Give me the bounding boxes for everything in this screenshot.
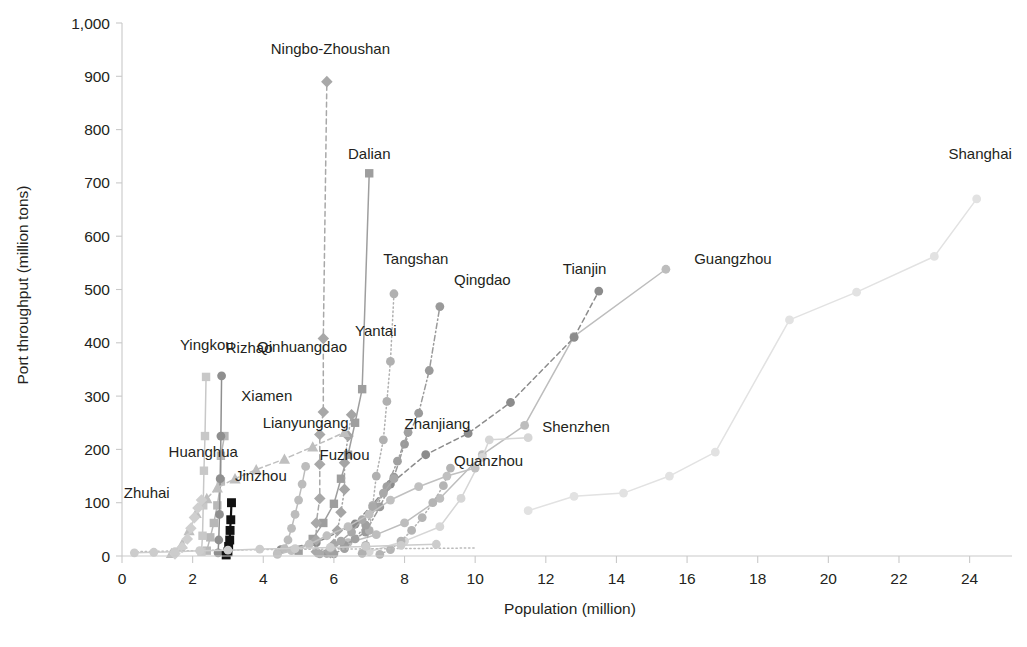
y-axis-tick-label: 600 xyxy=(84,228,110,245)
data-point-marker xyxy=(665,472,674,481)
series-layer xyxy=(130,76,981,560)
data-point-marker xyxy=(390,289,399,298)
data-point-marker xyxy=(421,450,430,459)
data-point-marker xyxy=(291,544,300,553)
series-line xyxy=(218,376,222,553)
series-shanghai xyxy=(524,194,981,515)
data-point-marker xyxy=(972,194,981,203)
y-axis-tick-label: 400 xyxy=(84,334,110,351)
data-point-marker xyxy=(198,532,206,540)
data-point-marker xyxy=(214,536,223,545)
y-axis-tick-label: 200 xyxy=(84,441,110,458)
series-line xyxy=(299,173,370,550)
data-point-marker xyxy=(594,287,603,296)
series-rizhao xyxy=(214,371,226,557)
data-point-marker xyxy=(386,496,395,505)
series-ningbo-zhoushan xyxy=(310,76,332,558)
x-axis-tick-label: 6 xyxy=(330,570,339,587)
y-axis-tick-label: 800 xyxy=(84,121,110,138)
series-label-fuzhou: Fuzhou xyxy=(319,446,369,463)
data-point-marker xyxy=(337,537,346,546)
series-label-shenzhen: Shenzhen xyxy=(542,418,610,435)
data-point-marker xyxy=(335,507,347,519)
data-point-marker xyxy=(414,482,423,491)
data-point-marker xyxy=(397,541,406,550)
data-point-marker xyxy=(425,366,434,375)
axis-layer: 01002003004005006007008009001,0000246810… xyxy=(71,15,1012,588)
data-point-marker xyxy=(428,498,437,507)
series-label-layer: ShanghaiGuangzhouTianjinShenzhenQingdaoT… xyxy=(124,40,1012,502)
x-axis-title: Population (million) xyxy=(504,600,636,617)
y-axis-tick-label: 900 xyxy=(84,68,110,85)
series-label-shanghai: Shanghai xyxy=(949,145,1012,162)
data-point-marker xyxy=(372,472,381,481)
data-point-marker xyxy=(711,448,720,457)
x-axis-tick-label: 18 xyxy=(749,570,766,587)
data-point-marker xyxy=(570,492,579,501)
data-point-marker xyxy=(315,549,324,558)
data-point-marker xyxy=(284,536,293,545)
x-axis-tick-label: 22 xyxy=(890,570,907,587)
data-point-marker xyxy=(171,547,180,556)
data-point-marker xyxy=(524,433,533,442)
data-point-marker xyxy=(457,494,466,503)
x-axis-tick-label: 14 xyxy=(608,570,626,587)
series-label-tangshan: Tangshan xyxy=(383,250,448,267)
data-point-marker xyxy=(435,302,444,311)
series-line xyxy=(528,199,977,511)
data-point-marker xyxy=(393,457,402,466)
series-label-huanghua: Huanghua xyxy=(169,443,239,460)
data-point-marker xyxy=(224,546,233,555)
data-point-marker xyxy=(255,545,264,554)
data-point-marker xyxy=(226,515,235,524)
data-point-marker xyxy=(215,510,224,519)
data-point-marker xyxy=(852,288,861,297)
data-point-marker xyxy=(524,506,533,515)
data-point-marker xyxy=(291,510,300,519)
data-point-marker xyxy=(322,531,331,540)
scatter-line-chart: 01002003004005006007008009001,0000246810… xyxy=(0,0,1027,647)
data-point-marker xyxy=(149,548,158,557)
x-axis-tick-label: 10 xyxy=(467,570,485,587)
data-point-marker xyxy=(439,481,448,490)
data-point-marker xyxy=(386,545,395,554)
series-label-tianjin: Tianjin xyxy=(563,260,607,277)
data-point-marker xyxy=(273,550,282,559)
x-axis-tick-label: 16 xyxy=(678,570,695,587)
data-point-marker xyxy=(217,371,226,380)
series-line xyxy=(316,82,327,552)
series-label-yantai: Yantai xyxy=(355,322,396,339)
data-point-marker xyxy=(279,453,290,463)
data-point-marker xyxy=(227,498,236,507)
data-point-marker xyxy=(520,421,529,430)
data-point-marker xyxy=(365,169,373,177)
data-point-marker xyxy=(570,333,579,342)
data-point-marker xyxy=(358,385,366,393)
data-point-marker xyxy=(307,441,318,451)
x-axis-tick-label: 12 xyxy=(537,570,554,587)
data-point-marker xyxy=(930,252,939,261)
data-point-marker xyxy=(326,543,335,552)
data-point-marker xyxy=(485,435,494,444)
y-axis-title: Port throughput (million tons) xyxy=(14,185,31,384)
series-label-lianyungang: Lianyungang xyxy=(263,414,349,431)
data-point-marker xyxy=(435,522,444,531)
data-point-marker xyxy=(375,550,384,559)
x-axis-tick-label: 24 xyxy=(961,570,979,587)
data-point-marker xyxy=(200,467,208,475)
data-point-marker xyxy=(386,357,395,366)
data-point-marker xyxy=(321,76,333,88)
x-axis-tick-label: 4 xyxy=(259,570,268,587)
data-point-marker xyxy=(225,536,234,545)
y-axis-tick-label: 0 xyxy=(101,548,110,565)
y-axis-tick-label: 700 xyxy=(84,174,110,191)
data-point-marker xyxy=(195,546,204,555)
data-point-marker xyxy=(344,522,353,531)
series-label-dalian: Dalian xyxy=(348,145,391,162)
data-point-marker xyxy=(216,432,225,441)
y-axis-tick-label: 500 xyxy=(84,281,110,298)
data-point-marker xyxy=(443,472,452,481)
data-point-marker xyxy=(390,474,399,483)
data-point-marker xyxy=(432,540,441,549)
data-point-marker xyxy=(287,524,296,533)
